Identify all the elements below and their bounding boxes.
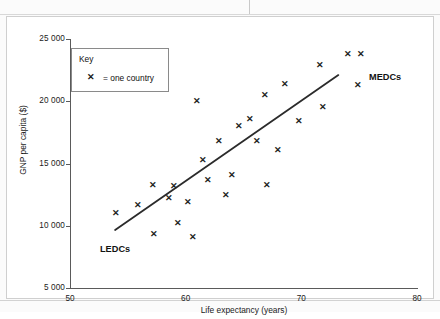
x-tick-label: 50 [55, 294, 85, 303]
data-point-marker: ✕ [357, 50, 365, 59]
best-fit-line [115, 75, 338, 230]
data-point-marker: ✕ [295, 117, 303, 126]
x-tick-label: 70 [286, 294, 316, 303]
legend-marker-label: = one country [103, 73, 154, 83]
data-point-marker: ✕ [193, 97, 201, 106]
y-tick-label: 25 000 [39, 34, 65, 43]
legend-marker-icon: ✕ [87, 73, 95, 82]
data-point-marker: ✕ [170, 182, 178, 191]
data-point-marker: ✕ [150, 230, 158, 239]
legend-key-box: Key ✕ = one country [71, 48, 169, 92]
data-point-marker: ✕ [215, 137, 223, 146]
y-tick-mark [66, 288, 70, 289]
y-tick-label: 5 000 [44, 283, 65, 292]
y-tick-mark [66, 39, 70, 40]
data-point-marker: ✕ [281, 80, 289, 89]
data-point-marker: ✕ [274, 146, 282, 155]
y-tick-label: 10 000 [39, 221, 65, 230]
data-point-marker: ✕ [235, 122, 243, 131]
page-gutter-mark [249, 0, 250, 14]
data-point-marker: ✕ [184, 198, 192, 207]
data-point-marker: ✕ [354, 81, 362, 90]
data-point-marker: ✕ [174, 219, 182, 228]
data-point-marker: ✕ [222, 190, 230, 199]
data-point-marker: ✕ [319, 103, 327, 112]
data-point-marker: ✕ [199, 156, 207, 165]
scatter-chart-figure: GNP per capita ($) Life expectancy (year… [6, 16, 434, 299]
y-tick-mark [66, 164, 70, 165]
data-point-marker: ✕ [165, 194, 173, 203]
x-axis-title: Life expectancy (years) [70, 305, 418, 315]
data-point-marker: ✕ [261, 91, 269, 100]
y-axis-title: GNP per capita ($) [18, 80, 28, 200]
data-point-marker: ✕ [253, 137, 261, 146]
data-point-marker: ✕ [134, 200, 142, 209]
data-point-marker: ✕ [263, 180, 271, 189]
data-point-marker: ✕ [149, 180, 157, 189]
legend-title: Key [79, 54, 93, 64]
annotation-ledcs: LEDCs [100, 244, 130, 254]
data-point-marker: ✕ [112, 209, 120, 218]
x-tick-label: 80 [402, 294, 432, 303]
data-point-marker: ✕ [316, 61, 324, 70]
annotation-medcs: MEDCs [369, 72, 401, 82]
y-tick-mark [66, 101, 70, 102]
data-point-marker: ✕ [189, 233, 197, 242]
data-point-marker: ✕ [228, 170, 236, 179]
x-tick-label: 60 [171, 294, 201, 303]
data-point-marker: ✕ [204, 175, 212, 184]
x-axis-line [70, 288, 418, 289]
data-point-marker: ✕ [246, 114, 254, 123]
data-point-marker: ✕ [344, 50, 352, 59]
y-tick-label: 15 000 [39, 159, 65, 168]
y-tick-mark [66, 226, 70, 227]
top-divider-rule [0, 14, 440, 15]
y-tick-label: 20 000 [39, 96, 65, 105]
